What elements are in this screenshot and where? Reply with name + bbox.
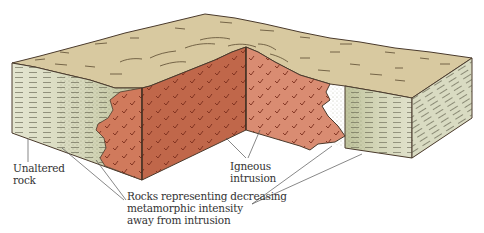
label-metamorphic-gradient: Rocks representing decreasing metamorphi… [127,190,287,226]
label-line: Igneous [230,160,276,172]
label-line: away from intrusion [127,214,287,226]
label-line: Rocks representing decreasing [127,190,287,202]
label-line: intrusion [230,172,276,184]
leader-igneous-2 [248,130,260,158]
label-line: Unaltered [13,162,65,174]
label-unaltered-rock: Unaltered rock [13,162,65,186]
label-line: metamorphic intensity [127,202,287,214]
label-igneous-intrusion: Igneous intrusion [230,160,276,184]
label-line: rock [13,174,65,186]
leader-igneous-1 [226,138,246,158]
